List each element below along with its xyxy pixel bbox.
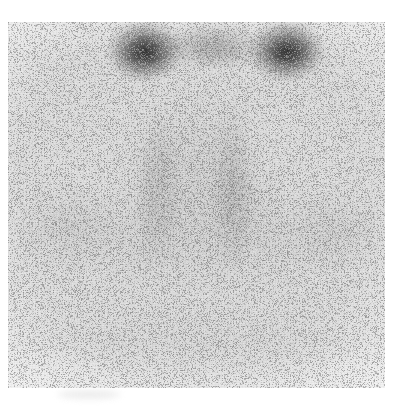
activity-uptake-layer [8, 22, 385, 388]
plate-vignette [8, 22, 385, 388]
midline-triangular-region [8, 22, 385, 388]
gamma-noise-layer [8, 22, 385, 388]
scintigram-image [8, 22, 385, 388]
edge-smudge-artifact [58, 390, 120, 399]
film-grain-layer [8, 22, 385, 388]
scintigram-viewer: Planar gamma camera scintigram Anterior … [0, 0, 396, 407]
